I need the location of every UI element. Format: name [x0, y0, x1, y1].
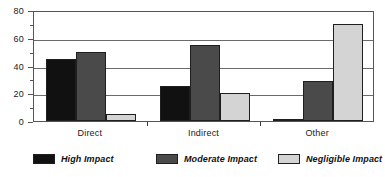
y-axis-tick-label: 60	[14, 34, 24, 43]
y-axis: 020406080	[0, 0, 33, 133]
plot-area	[33, 11, 374, 122]
bar	[46, 59, 76, 121]
chart-legend: High ImpactModerate ImpactNegligible Imp…	[33, 152, 378, 170]
bar-chart: 020406080 DirectIndirectOther High Impac…	[0, 0, 385, 177]
bar	[106, 114, 136, 121]
y-axis-tick-label: 0	[19, 118, 24, 127]
y-axis-tick-label: 20	[14, 90, 24, 99]
y-axis-tick-label: 80	[14, 7, 24, 16]
x-axis-category-label: Other	[305, 128, 329, 138]
x-axis-tick	[147, 122, 148, 126]
bar	[76, 52, 106, 121]
legend-label: High Impact	[61, 154, 114, 164]
x-axis-category-label: Direct	[77, 128, 102, 138]
bar	[190, 45, 220, 121]
legend-item[interactable]: Negligible Impact	[278, 152, 382, 166]
bar	[273, 119, 303, 121]
x-axis-labels: DirectIndirectOther	[33, 128, 374, 144]
bars-layer	[34, 12, 373, 121]
x-axis-tick	[260, 122, 261, 126]
legend-label: Moderate Impact	[184, 154, 257, 164]
legend-swatch-icon	[278, 154, 300, 164]
bar	[160, 86, 190, 121]
bar	[333, 24, 363, 121]
bar	[220, 93, 250, 121]
legend-item[interactable]: High Impact	[33, 152, 114, 166]
legend-item[interactable]: Moderate Impact	[156, 152, 257, 166]
legend-swatch-icon	[156, 154, 178, 164]
legend-swatch-icon	[33, 154, 55, 164]
x-axis-ticks	[33, 122, 374, 127]
legend-label: Negligible Impact	[306, 154, 382, 164]
bar	[303, 81, 333, 121]
y-axis-tick-label: 40	[14, 62, 24, 71]
x-axis-category-label: Indirect	[188, 128, 219, 138]
